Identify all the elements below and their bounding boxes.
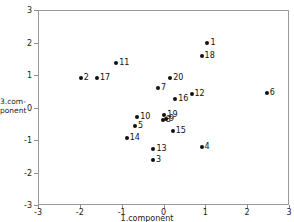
data-point [79, 76, 83, 80]
data-point-label: 19 [167, 111, 177, 119]
data-point-label: 1 [210, 39, 215, 47]
y-axis-tick-label: -1 [8, 136, 32, 145]
x-axis-tick-label: 2 [235, 208, 259, 217]
data-point-label: 20 [173, 74, 183, 82]
data-point [190, 92, 194, 96]
data-point-label: 6 [270, 89, 275, 97]
x-axis-tick-label: 1 [193, 208, 217, 217]
data-point-label: 11 [119, 59, 129, 67]
data-point-label: 12 [195, 90, 205, 98]
y-axis-tick [34, 43, 38, 44]
y-axis-tick-label: 0 [8, 104, 32, 113]
y-axis-tick [34, 10, 38, 11]
data-point-label: 2 [84, 74, 89, 82]
y-axis-tick-label: 3 [8, 6, 32, 15]
data-point-label: 17 [100, 74, 110, 82]
y-axis-tick [34, 108, 38, 109]
data-point-label: 13 [156, 145, 166, 153]
data-point-label: 16 [178, 95, 188, 103]
data-point [168, 76, 172, 80]
data-point-label: 14 [130, 134, 140, 142]
data-point-label: 5 [138, 122, 143, 130]
data-point [200, 54, 204, 58]
data-point-label: 4 [205, 143, 210, 151]
data-point-label: 18 [205, 52, 215, 60]
y-axis-tick-label: 2 [8, 39, 32, 48]
data-point [171, 129, 175, 133]
data-point [95, 76, 99, 80]
data-point [265, 91, 269, 95]
data-point [135, 115, 139, 119]
y-axis-tick [34, 75, 38, 76]
scatter-plot-figure: 3.com- ponent 1.component -3-2-10123-3-2… [0, 0, 294, 222]
x-axis-tick-label: -1 [110, 208, 134, 217]
plot-area-frame [38, 10, 289, 205]
y-axis-tick [34, 140, 38, 141]
data-point [114, 61, 118, 65]
data-point [125, 136, 129, 140]
y-axis-tick [34, 173, 38, 174]
data-point-label: 15 [176, 127, 186, 135]
x-axis-tick-label: 0 [152, 208, 176, 217]
data-point-label: 10 [140, 113, 150, 121]
x-axis-tick-label: 3 [277, 208, 294, 217]
x-axis-tick-label: -3 [26, 208, 50, 217]
y-axis-tick-label: -2 [8, 169, 32, 178]
y-axis-tick-label: 1 [8, 71, 32, 80]
x-axis-tick-label: -2 [68, 208, 92, 217]
data-point-label: 3 [156, 156, 161, 164]
data-point [200, 145, 204, 149]
data-point-label: 7 [161, 84, 166, 92]
